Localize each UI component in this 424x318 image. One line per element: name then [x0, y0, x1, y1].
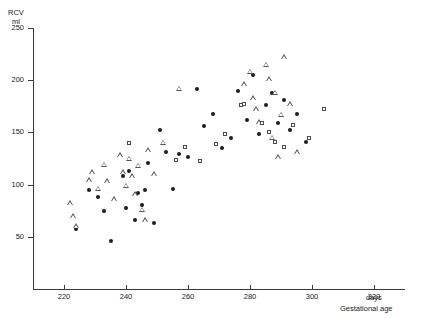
data-point-circle: [257, 132, 261, 136]
data-point-circle: [158, 128, 162, 132]
data-point-square: [174, 158, 178, 162]
data-point-triangle: [126, 156, 132, 161]
data-point-square: [291, 123, 295, 127]
data-point-triangle: [250, 95, 256, 100]
data-point-circle: [186, 155, 190, 159]
data-point-square: [282, 145, 286, 149]
data-point-triangle: [142, 217, 148, 222]
data-point-circle: [295, 112, 299, 116]
data-point-triangle: [117, 152, 123, 157]
data-point-circle: [152, 221, 156, 225]
data-point-triangle: [241, 81, 247, 86]
data-point-triangle: [287, 101, 293, 106]
data-point-circle: [288, 128, 292, 132]
data-point-circle: [202, 124, 206, 128]
data-point-triangle: [89, 169, 95, 174]
data-point-triangle: [281, 54, 287, 59]
data-point-triangle: [278, 112, 284, 117]
data-point-triangle: [120, 169, 126, 174]
data-point-circle: [195, 87, 199, 91]
data-point-square: [214, 142, 218, 146]
data-point-triangle: [145, 147, 151, 152]
data-point-triangle: [123, 183, 129, 188]
data-point-circle: [146, 161, 150, 165]
scatter-plot-area: [0, 0, 424, 318]
data-point-circle: [164, 150, 168, 154]
data-point-triangle: [129, 173, 135, 178]
data-point-circle: [143, 188, 147, 192]
data-point-circle: [236, 89, 240, 93]
data-point-square: [242, 102, 246, 106]
data-point-circle: [211, 112, 215, 116]
data-point-circle: [177, 152, 181, 156]
data-point-square: [267, 130, 271, 134]
data-point-triangle: [275, 154, 281, 159]
data-point-circle: [124, 206, 128, 210]
data-point-square: [127, 141, 131, 145]
data-point-circle: [133, 218, 137, 222]
data-point-circle: [220, 146, 224, 150]
data-point-triangle: [73, 223, 79, 228]
data-point-circle: [171, 187, 175, 191]
data-point-square: [260, 121, 264, 125]
data-point-square: [183, 145, 187, 149]
data-point-triangle: [104, 178, 110, 183]
data-point-triangle: [101, 162, 107, 167]
data-point-circle: [102, 209, 106, 213]
data-point-triangle: [160, 140, 166, 145]
data-point-circle: [304, 140, 308, 144]
data-point-square: [307, 136, 311, 140]
data-point-circle: [96, 195, 100, 199]
data-point-triangle: [176, 86, 182, 91]
data-point-triangle: [253, 106, 259, 111]
data-point-square: [223, 132, 227, 136]
data-point-triangle: [70, 213, 76, 218]
data-point-circle: [264, 103, 268, 107]
data-point-circle: [245, 118, 249, 122]
data-point-circle: [229, 136, 233, 140]
data-point-triangle: [111, 196, 117, 201]
data-point-circle: [121, 174, 125, 178]
data-point-triangle: [272, 90, 278, 95]
data-point-triangle: [95, 186, 101, 191]
data-point-triangle: [139, 207, 145, 212]
data-point-circle: [282, 98, 286, 102]
data-point-triangle: [86, 177, 92, 182]
data-point-triangle: [266, 76, 272, 81]
data-point-triangle: [132, 191, 138, 196]
data-point-square: [198, 159, 202, 163]
data-point-triangle: [151, 171, 157, 176]
data-point-triangle: [294, 149, 300, 154]
data-point-triangle: [135, 163, 141, 168]
data-point-triangle: [67, 200, 73, 205]
data-point-square: [273, 140, 277, 144]
data-point-circle: [276, 121, 280, 125]
data-point-triangle: [247, 69, 253, 74]
data-point-triangle: [263, 62, 269, 67]
data-point-circle: [87, 188, 91, 192]
chart-container: RCV ml 50100150200250 220240260280300320…: [0, 0, 424, 318]
data-point-square: [322, 107, 326, 111]
data-point-circle: [109, 239, 113, 243]
